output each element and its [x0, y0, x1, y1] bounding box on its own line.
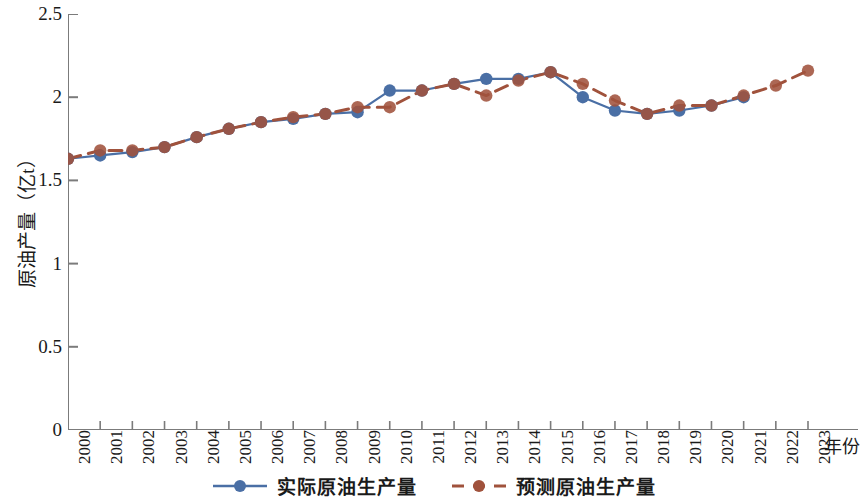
- plot-area: [68, 14, 858, 430]
- legend-label-actual: 实际原油生产量: [277, 472, 417, 499]
- chart-figure: 原油产量（亿t） 00.511.522.5 200020012002200320…: [0, 0, 868, 500]
- y-axis-tick-label: 2.5: [16, 4, 62, 23]
- y-axis-tick-label: 2: [16, 87, 62, 106]
- legend-item-actual: 实际原油生产量: [212, 472, 417, 499]
- plot-svg: [68, 14, 858, 430]
- legend-swatch-dashed-line-icon: [451, 477, 507, 495]
- y-axis-tick-labels: 00.511.522.5: [10, 0, 62, 440]
- y-axis-tick-label: 1.5: [16, 170, 62, 189]
- legend-item-forecast: 预测原油生产量: [451, 472, 656, 499]
- y-axis-tick-label: 0.5: [16, 337, 62, 356]
- legend-label-forecast: 预测原油生产量: [516, 472, 656, 499]
- x-axis-title: 年份: [824, 432, 860, 458]
- chart-legend: 实际原油生产量 预测原油生产量: [0, 472, 868, 499]
- y-axis-tick-label: 0: [16, 420, 62, 439]
- legend-swatch-solid-line-icon: [212, 477, 268, 495]
- y-axis-tick-label: 1: [16, 254, 62, 273]
